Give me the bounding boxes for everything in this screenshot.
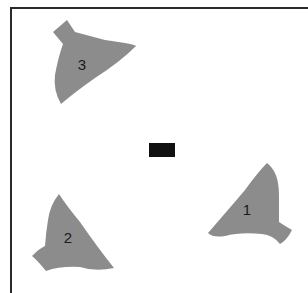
shape-2: 2 (32, 194, 114, 271)
shape-3-label: 3 (78, 56, 86, 73)
shape-3: 3 (53, 20, 136, 104)
center-marker (149, 143, 175, 157)
shape-1: 1 (208, 163, 292, 244)
diagram-svg: 3 2 1 (0, 0, 308, 293)
shape-1-label: 1 (243, 201, 251, 218)
shape-2-label: 2 (64, 229, 72, 246)
diagram-canvas: 3 2 1 (0, 0, 308, 293)
